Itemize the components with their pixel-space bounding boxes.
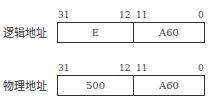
page-offset-field: A60 <box>134 23 204 42</box>
physical-address-box: 500 A60 <box>57 75 205 96</box>
frame-offset-field: A60 <box>134 76 204 95</box>
bit-11-label: 11 <box>136 10 147 20</box>
physical-address-label: 物理地址 <box>3 80 47 93</box>
bit-12-label: 12 <box>119 10 130 20</box>
bit-0-label: 0 <box>198 10 204 20</box>
logical-address-box: E A60 <box>57 22 205 43</box>
bit-12-label: 12 <box>119 63 130 73</box>
bit-31-label: 31 <box>58 10 69 20</box>
bit-31-label: 31 <box>58 63 69 73</box>
bit-11-label: 11 <box>136 63 147 73</box>
bit-0-label: 0 <box>198 63 204 73</box>
page-number-field: E <box>58 23 134 42</box>
logical-address-label: 逻辑地址 <box>3 27 47 40</box>
frame-number-field: 500 <box>58 76 134 95</box>
